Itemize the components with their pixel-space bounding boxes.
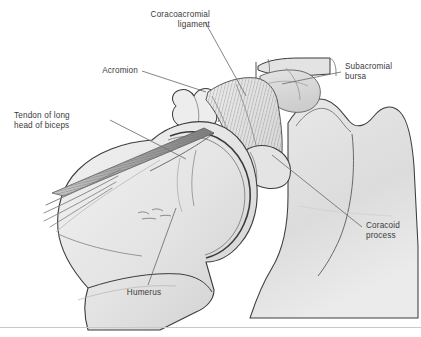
shoulder-anatomy-illustration [0,0,421,337]
label-coracoacromial-ligament: Coracoacromial ligament [92,10,210,31]
label-subacromial-bursa: Subacromial bursa [345,62,419,83]
anatomy-figure: Coracoacromial ligament Acromion Subacro… [0,0,421,337]
label-tendon-of-long-head-of-biceps: Tendon of long head of biceps [14,111,106,132]
label-humerus: Humerus [108,288,180,298]
label-acromion: Acromion [60,66,138,76]
leader-acromion [142,71,206,92]
label-coracoid-process: Coracoid process [366,221,421,242]
